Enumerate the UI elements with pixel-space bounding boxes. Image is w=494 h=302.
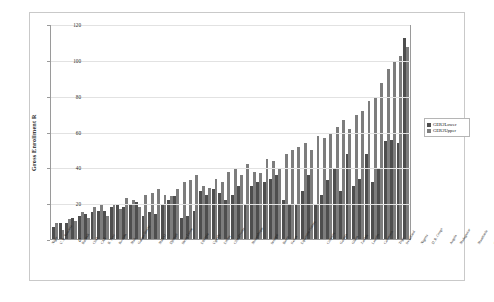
y-axis-tick-mark [47,240,50,241]
gridline [51,133,410,134]
y-axis-tick-label: 20 [53,201,81,207]
plot-area [50,25,411,240]
y-axis-tick-mark [47,61,50,62]
gridline [51,97,410,98]
y-axis-tick-label: 120 [53,22,81,28]
gridline [51,25,410,26]
y-axis-tick-mark [47,25,50,26]
y-axis-tick-mark [47,204,50,205]
legend-swatch-lower-icon [427,123,431,127]
bar-upper [406,47,409,239]
y-axis-title: Gross Enrollment R [26,98,40,188]
chart-legend: GER2Lower GER2Upper [424,118,470,137]
legend-swatch-upper-icon [427,129,431,133]
legend-label-lower: GER2Lower [433,122,456,127]
x-axis-labels: NigerU. R. TanzaniaBurundiChadCARB. Faso… [50,242,411,288]
gridline [51,61,410,62]
legend-item-lower: GER2Lower [427,122,467,127]
gridline [51,204,410,205]
y-axis-tick-label: 100 [53,58,81,64]
gridline [51,168,410,169]
legend-label-upper: GER2Upper [433,128,456,133]
legend-item-upper: GER2Upper [427,128,467,133]
x-axis-tick: Niger [51,242,59,288]
y-axis-tick-mark [47,168,50,169]
y-axis-tick-label: 40 [53,165,81,171]
y-axis-tick-label: 80 [53,94,81,100]
y-axis-tick-mark [47,133,50,134]
y-axis-tick-mark [47,97,50,98]
y-axis-tick-label: 60 [53,130,81,136]
